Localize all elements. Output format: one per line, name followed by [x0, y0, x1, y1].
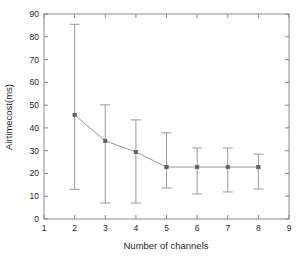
- x-tick-label: 4: [134, 223, 139, 233]
- data-marker: [165, 165, 168, 168]
- x-tick-label: 6: [195, 223, 200, 233]
- x-tick-label: 3: [103, 223, 108, 233]
- x-tick-label: 1: [42, 223, 47, 233]
- y-tick-label: 60: [30, 77, 40, 87]
- y-tick-label: 80: [30, 32, 40, 42]
- x-tick-label: 7: [225, 223, 230, 233]
- y-tick-label: 50: [30, 100, 40, 110]
- x-axis-title: Number of channels: [123, 240, 208, 251]
- y-tick-label: 70: [30, 55, 40, 65]
- airtimecost-chart: 0102030405060708090 123456789 Number of …: [0, 0, 302, 258]
- y-tick-label: 10: [30, 191, 40, 201]
- x-tick-label: 5: [164, 223, 169, 233]
- data-marker: [257, 165, 260, 168]
- y-tick-label: 40: [30, 123, 40, 133]
- data-marker: [73, 113, 76, 116]
- x-tick-label: 9: [287, 223, 292, 233]
- y-tick-label: 30: [30, 146, 40, 156]
- y-tick-label: 90: [30, 9, 40, 19]
- data-marker: [195, 165, 198, 168]
- x-tick-label: 2: [72, 223, 77, 233]
- y-tick-label: 20: [30, 168, 40, 178]
- data-marker: [134, 150, 137, 153]
- data-marker: [226, 165, 229, 168]
- data-marker: [104, 139, 107, 142]
- y-axis-title: Airtimecost(ms): [3, 84, 14, 150]
- chart-canvas: 0102030405060708090 123456789 Number of …: [0, 0, 302, 258]
- x-tick-label: 8: [256, 223, 261, 233]
- y-tick-label: 0: [34, 214, 39, 224]
